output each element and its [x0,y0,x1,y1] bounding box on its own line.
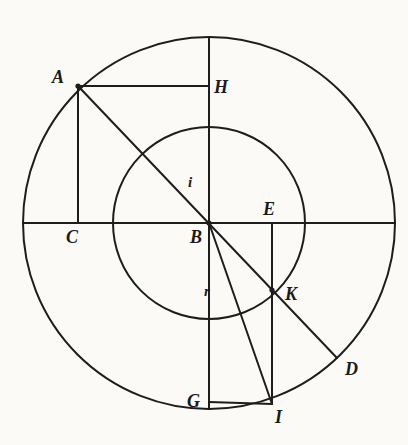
segment-label-r: r [204,284,210,299]
line-G-to-I [209,402,272,404]
point-label-i: I [275,408,282,426]
point-label-d: D [345,360,358,378]
point-label-k: K [285,285,297,303]
point-marker-k [269,287,274,292]
point-marker-b [206,220,211,225]
point-label-e: E [263,200,275,218]
point-label-b: B [190,228,202,246]
refraction-diagram: AHCBEKDGIir [0,0,408,445]
line-B-to-I [209,223,272,404]
point-marker-a [75,83,80,88]
point-label-a: A [52,68,64,86]
point-label-h: H [214,78,228,96]
segment-label-i: i [188,175,192,190]
point-label-g: G [187,392,200,410]
point-label-c: C [66,228,78,246]
